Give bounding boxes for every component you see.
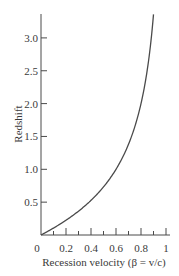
x-tick-label: 0 [34,242,40,254]
x-tick-label: 1 [163,242,169,254]
x-axis: 00.20.40.60.81 [34,228,170,254]
x-tick-label: 0.6 [109,242,123,254]
x-axis-title: Recession velocity (β = v/c) [42,256,166,269]
y-tick-label: 1.0 [24,163,38,175]
y-tick-label: 3.0 [24,32,38,44]
y-tick-label: 2.5 [24,65,38,77]
x-tick-label: 0.8 [134,242,148,254]
x-tick-label: 0.4 [84,242,98,254]
y-axis-title: Redshift [12,105,24,142]
redshift-chart: 0.51.01.52.02.53.0 00.20.40.60.81 Redshi… [0,0,179,276]
y-tick-label: 0.5 [24,196,38,208]
x-tick-label: 0.2 [59,242,73,254]
y-tick-label: 1.5 [24,130,38,142]
x-ticks: 00.20.40.60.81 [34,228,169,254]
y-axis: 0.51.01.52.02.53.0 [24,14,47,235]
y-tick-label: 2.0 [24,98,38,110]
y-ticks: 0.51.01.52.02.53.0 [24,32,47,208]
redshift-curve [41,14,154,235]
